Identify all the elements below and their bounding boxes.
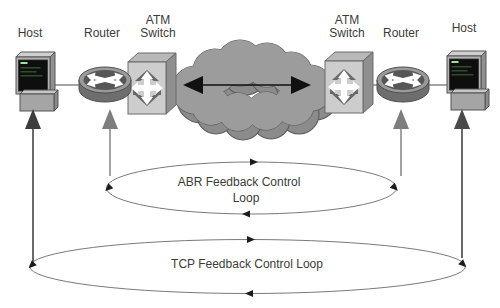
host-icon-right	[447, 51, 489, 110]
tcp-loop-arrowhead-bottom	[245, 290, 253, 297]
diagram-canvas: Host Router ATM Switch ATM Switch Router…	[0, 0, 500, 308]
abr-loop-label-line1: ABR Feedback Control	[178, 176, 301, 189]
tcp-loop-label: TCP Feedback Control Loop	[171, 258, 323, 271]
host-right-label: Host	[452, 22, 477, 35]
host-icon-left	[16, 52, 58, 111]
atm-right-label: ATM Switch	[329, 14, 364, 40]
abr-loop-label-line2: Loop	[233, 192, 260, 205]
host-right-up-arrow	[454, 109, 470, 258]
atm-left-label: ATM Switch	[140, 14, 175, 40]
router-icon-left	[79, 67, 131, 102]
atm-right-label-line2: Switch	[329, 27, 364, 40]
atm-switch-icon-left	[128, 53, 176, 114]
tcp-loop-arrowhead-left	[26, 260, 37, 271]
router-icon-right	[377, 67, 429, 102]
abr-loop-arrowhead-top	[250, 159, 258, 166]
router-left-label: Router	[84, 27, 120, 40]
abr-loop-arrowhead-bottom	[242, 211, 250, 218]
router-left-up-arrow	[102, 109, 118, 176]
router-right-label: Router	[383, 27, 419, 40]
host-left-label: Host	[18, 27, 43, 40]
atm-switch-icon-right	[325, 52, 373, 113]
atm-left-label-line2: Switch	[140, 27, 175, 40]
tcp-loop-arrowhead-top	[247, 236, 255, 243]
host-left-up-arrow	[25, 109, 41, 262]
router-right-up-arrow	[393, 109, 409, 176]
